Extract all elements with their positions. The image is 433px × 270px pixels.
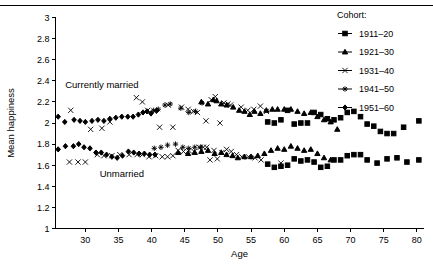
data-point-diamond (131, 114, 136, 119)
data-point-star (193, 109, 198, 114)
data-point-diamond (82, 145, 87, 150)
data-point-star (152, 146, 157, 151)
legend-item-1941-50[interactable]: 1941–50 (338, 84, 394, 94)
data-point-square (385, 157, 390, 162)
legend-title: Cohort: (337, 10, 367, 20)
y-axis-title: Mean happiness (5, 88, 16, 158)
legend-marker-square (343, 31, 348, 36)
data-point-square (378, 129, 383, 134)
legend-marker-diamond (343, 105, 348, 110)
data-point-star (173, 141, 178, 146)
y-axis-tick-label: 1.6 (37, 161, 50, 171)
data-point-triangle (224, 152, 229, 157)
data-point-triangle (288, 107, 293, 112)
x-axis-title-group: Age (231, 248, 248, 259)
data-point-x (170, 125, 175, 130)
series-1911-20-unmarried (265, 152, 421, 169)
data-point-triangle (262, 151, 267, 156)
data-point-square (405, 160, 410, 165)
data-point-x (134, 95, 139, 100)
data-point-diamond (56, 114, 61, 119)
annotations-group: Currently marriedUnmarried (65, 79, 144, 179)
y-axis-tick-label: 1.8 (37, 139, 50, 149)
data-point-square (345, 110, 350, 115)
legend-label: 1941–50 (359, 84, 394, 94)
data-point-triangle (288, 144, 293, 149)
data-point-x (215, 156, 220, 161)
legend-marker-star (342, 86, 347, 91)
data-point-diamond (62, 119, 67, 124)
data-point-diamond (83, 119, 88, 124)
data-point-triangle (268, 148, 273, 153)
data-point-square (417, 158, 422, 163)
data-point-x (258, 103, 263, 108)
data-point-x (68, 108, 73, 113)
data-point-square (312, 160, 317, 165)
data-point-square (417, 119, 422, 124)
legend-label: 1911–20 (359, 29, 393, 39)
data-point-x (170, 153, 175, 158)
series-1951-60-unmarried (56, 142, 157, 161)
y-axis-tick-label: 2.4 (37, 76, 50, 86)
legend-item-1911-20[interactable]: 1911–20 (338, 29, 393, 39)
data-point-square (279, 118, 284, 123)
y-axis-tick-label: 1 (44, 224, 49, 234)
data-point-square (272, 165, 277, 170)
data-point-square (265, 162, 270, 167)
y-axis-tick-label: 2 (44, 118, 49, 128)
data-point-triangle (205, 101, 210, 106)
y-axis-tick-label: 1.2 (37, 203, 50, 213)
data-point-x (229, 149, 234, 154)
data-point-square (305, 158, 310, 163)
data-point-triangle (335, 127, 340, 132)
data-point-triangle (302, 111, 307, 116)
y-axis-tick-label: 1.4 (37, 182, 50, 192)
data-point-square (358, 152, 363, 157)
data-point-star (178, 106, 183, 111)
data-point-star (186, 146, 191, 151)
data-point-triangle (258, 111, 263, 116)
data-point-square (292, 157, 297, 162)
data-point-triangle (295, 146, 300, 151)
y-axis-tick-label: 2.2 (37, 97, 50, 107)
legend-item-1921-30[interactable]: 1921–30 (338, 47, 394, 57)
data-point-square (285, 163, 290, 168)
data-point-diamond (102, 118, 107, 123)
x-axis-tick-label: 45 (180, 235, 190, 245)
data-point-diamond (147, 152, 152, 157)
data-point-x (203, 118, 208, 123)
data-point-diamond (120, 114, 125, 119)
y-axis-tick-label: 2.8 (37, 34, 50, 44)
data-point-square (318, 165, 323, 170)
data-point-x (75, 159, 80, 164)
data-point-x (83, 159, 88, 164)
data-point-star (165, 142, 170, 147)
data-point-square (272, 121, 277, 126)
data-point-square (375, 161, 380, 166)
data-point-diamond (131, 150, 136, 155)
legend-marker-triangle (342, 49, 347, 54)
x-axis-tick-label: 80 (412, 235, 422, 245)
y-axis-title-group: Mean happiness (5, 88, 16, 158)
legend-item-1931-40[interactable]: 1931–40 (338, 66, 394, 76)
data-point-x (217, 120, 222, 125)
data-point-square (352, 109, 357, 114)
data-point-diamond (88, 146, 93, 151)
data-point-triangle (282, 147, 287, 152)
data-point-x (207, 157, 212, 162)
data-point-square (391, 131, 396, 136)
data-point-square (385, 131, 390, 136)
data-point-star (186, 110, 191, 115)
x-axis-tick-label: 75 (379, 235, 389, 245)
data-point-x (157, 125, 162, 130)
data-point-x (181, 149, 186, 154)
data-point-diamond (110, 154, 115, 159)
series-1941-50-married (151, 100, 205, 115)
data-point-square (305, 121, 310, 126)
data-point-diamond (78, 118, 83, 123)
data-point-x (140, 99, 145, 104)
y-axis-tick-label: 3 (44, 13, 49, 23)
data-point-x (165, 154, 170, 159)
data-point-square (325, 164, 330, 169)
annotation-currently-married: Currently married (65, 79, 138, 90)
